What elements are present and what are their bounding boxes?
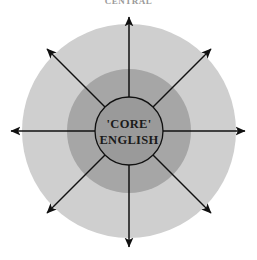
- figure-root: CENTRAL 'CORE' ENGLISH: [0, 0, 257, 260]
- concentric-circles-diagram: 'CORE' ENGLISH: [0, 0, 257, 260]
- core-label-line-1: 'CORE': [107, 117, 152, 131]
- core-label-line-2: ENGLISH: [99, 133, 158, 147]
- core-circle: [95, 97, 163, 165]
- core-group: 'CORE' ENGLISH: [95, 97, 163, 165]
